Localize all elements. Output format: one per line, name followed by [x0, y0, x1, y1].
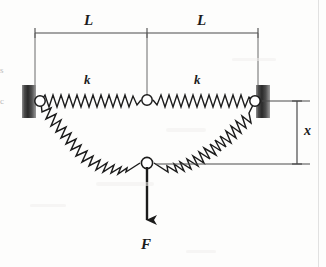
edge-fragment-top: s — [0, 66, 4, 75]
spring-lower-left — [41, 103, 140, 174]
pin-joint-right-wall — [250, 96, 260, 106]
spring-system-figure: L L k k x F s c — [0, 0, 326, 267]
diagram-canvas — [0, 0, 326, 267]
paper-speck — [30, 204, 66, 207]
paper-speck — [186, 250, 216, 253]
spring-upper-right — [153, 95, 254, 107]
label-stiffness-left: k — [84, 73, 91, 86]
label-stiffness-right: k — [194, 73, 201, 86]
paper-speck — [166, 128, 206, 132]
label-length-left: L — [84, 13, 93, 28]
edge-fragment-bottom: c — [0, 97, 4, 106]
label-displacement: x — [304, 124, 311, 138]
pin-joint-center-undeformed — [142, 95, 152, 105]
label-length-right: L — [197, 13, 206, 28]
spring-lower-right — [154, 103, 254, 172]
pin-joint-center-deformed — [141, 157, 152, 168]
label-force: F — [141, 237, 151, 252]
pin-joint-left-wall — [35, 96, 45, 106]
paper-speck — [232, 58, 276, 61]
paper-speck — [96, 182, 154, 186]
dimension-group-displacement — [155, 101, 310, 164]
scan-edge-line — [318, 0, 319, 267]
left-wall-support — [22, 85, 36, 118]
dimension-group-length — [35, 28, 258, 98]
spring-upper-left — [41, 95, 141, 107]
